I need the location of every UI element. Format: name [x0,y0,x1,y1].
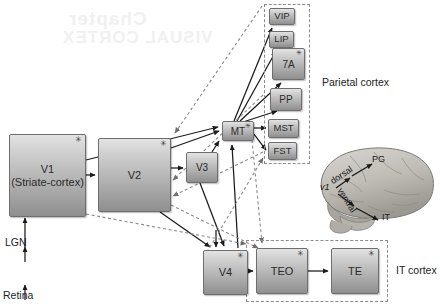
node-v2[interactable]: ✳ V2 [98,138,171,212]
brain-label-v1: v1 [320,182,330,192]
figure-canvas: Chapter VISUAL CORTEX [0,0,440,308]
node-v4-label: V4 [204,266,247,278]
node-v1-label: V1 [41,163,54,175]
node-7a-label: 7A [273,59,304,70]
node-v3[interactable]: V3 [186,152,218,183]
node-v1-sublabel: (Striate-cortex) [11,176,84,188]
node-v4[interactable]: ✳ V4 [203,250,248,295]
node-mt[interactable]: ✳ MT [222,121,254,141]
asterisk-icon: ✳ [368,250,375,258]
asterisk-icon: ✳ [160,140,167,148]
node-lip[interactable]: LIP [269,31,294,48]
node-v2-label: V2 [99,169,170,181]
brain-label-pg: PG [372,154,385,164]
node-vip-label: VIP [270,11,294,21]
node-te-label: TE [332,265,378,277]
asterisk-icon: ✳ [237,252,244,260]
node-te[interactable]: ✳ TE [331,248,379,294]
region-parietal-cortex [264,4,310,164]
asterisk-icon: ✳ [75,136,82,144]
node-lip-label: LIP [270,34,293,44]
asterisk-icon: ✳ [296,49,302,56]
brain-illustration: v1 dorsal ventral PG IT [306,136,438,236]
node-teo-label: TEO [257,265,307,277]
node-fst-label: FST [269,146,296,156]
region-label-parietal: Parietal cortex [322,76,389,88]
label-lgn: LGN [5,236,27,248]
node-teo[interactable]: ✳ TEO [256,248,308,294]
node-v3-label: V3 [187,162,217,173]
node-vip[interactable]: VIP [269,8,295,25]
node-fst[interactable]: FST [268,142,297,160]
asterisk-icon: ✳ [245,122,251,129]
label-retina: Retina [3,289,33,301]
region-label-it: IT cortex [396,264,437,276]
node-mst[interactable]: MST [268,119,299,138]
node-pp-label: PP [271,94,301,105]
node-pp[interactable]: PP [270,88,302,111]
asterisk-icon: ✳ [297,250,304,258]
node-7a[interactable]: ✳ 7A [272,48,305,80]
node-v1[interactable]: ✳ V1 (Striate-cortex) [9,134,86,217]
brain-label-it: IT [382,212,390,222]
node-mst-label: MST [269,123,298,133]
